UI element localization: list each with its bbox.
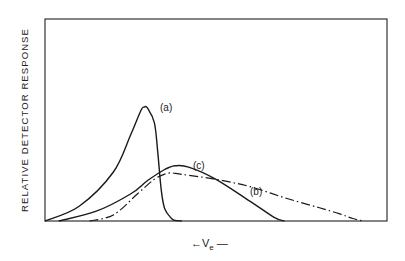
x-axis-label: ←Ve —: [191, 237, 228, 249]
plot-frame: [45, 19, 387, 221]
x-axis-tail-dash: —: [217, 237, 228, 249]
x-axis-label-subscript: e: [209, 243, 213, 252]
chart-canvas: [0, 0, 405, 261]
y-axis-label: RELATIVE DETECTOR RESPONSE: [19, 28, 30, 212]
curve-label-b: (b): [250, 186, 262, 197]
left-arrow-icon: ←: [191, 237, 202, 249]
curve-label-c: (c): [193, 160, 205, 171]
curve-label-a: (a): [160, 102, 172, 113]
curve-b: [90, 173, 364, 221]
